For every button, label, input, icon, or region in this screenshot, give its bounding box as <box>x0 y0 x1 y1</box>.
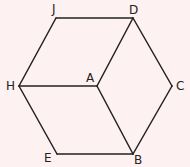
edge-D-C <box>133 18 172 86</box>
vertex-label-A: A <box>86 71 95 85</box>
vertex-labels: J D H A C E B <box>6 2 184 167</box>
vertex-label-C: C <box>176 79 184 93</box>
edge-H-E <box>19 86 57 154</box>
vertex-label-H: H <box>6 79 15 93</box>
edge-D-A <box>97 18 133 86</box>
vertex-label-B: B <box>134 153 142 167</box>
hexagon-cube-diagram: J D H A C E B <box>0 0 190 167</box>
edge-A-B <box>97 86 133 154</box>
edge-J-H <box>19 18 56 86</box>
vertex-label-J: J <box>51 2 56 16</box>
vertex-label-D: D <box>129 3 138 17</box>
vertex-label-E: E <box>44 151 52 165</box>
edges <box>19 18 172 154</box>
edge-C-B <box>133 86 172 154</box>
